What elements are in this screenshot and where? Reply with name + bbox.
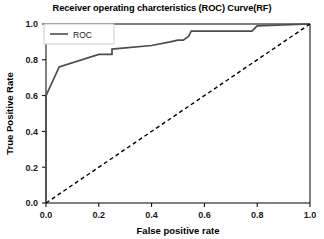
- roc-chart-figure: Receiver operating charcteristics (ROC) …: [0, 0, 324, 239]
- plot-canvas: 0.0 0.2 0.4 0.6 0.8 1.0 0.0 0.2 0.4 0.6 …: [0, 0, 324, 239]
- x-tick-label: 1.0: [304, 210, 317, 220]
- legend[interactable]: ROC: [44, 24, 114, 44]
- y-tick-label: 1.0: [25, 19, 38, 29]
- y-tick-label: 0.0: [25, 198, 38, 208]
- y-tick-label: 0.8: [25, 55, 38, 65]
- y-tick-label: 0.6: [25, 91, 38, 101]
- x-tick-labels: 0.0 0.2 0.4 0.6 0.8 1.0: [40, 210, 317, 220]
- series-line-chance: [46, 24, 310, 203]
- series-group: [46, 24, 310, 203]
- x-tick-label: 0.4: [145, 210, 158, 220]
- x-tick-label: 0.0: [40, 210, 53, 220]
- y-tick-label: 0.4: [25, 127, 38, 137]
- series-line-ROC: [46, 24, 310, 203]
- x-tick-label: 0.2: [93, 210, 106, 220]
- x-axis-ticks: [46, 203, 310, 207]
- x-axis-title: False positive rate: [137, 225, 220, 236]
- x-tick-label: 0.8: [251, 210, 264, 220]
- y-axis-title: True Positive Rate: [4, 72, 15, 154]
- legend-item-label: ROC: [73, 30, 92, 40]
- x-tick-label: 0.6: [198, 210, 211, 220]
- axes-spines: [46, 24, 310, 203]
- y-tick-labels: 0.0 0.2 0.4 0.6 0.8 1.0: [25, 19, 38, 208]
- y-tick-label: 0.2: [25, 163, 38, 173]
